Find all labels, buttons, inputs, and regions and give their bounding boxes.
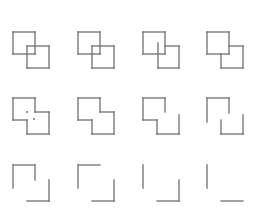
panel-6 xyxy=(78,98,114,134)
panel-5 xyxy=(13,98,49,134)
panel-7 xyxy=(143,98,179,134)
panel-10 xyxy=(78,165,114,201)
panel-8 xyxy=(207,98,243,134)
dot-marker xyxy=(26,111,28,113)
panel-9 xyxy=(13,165,49,201)
panel-4 xyxy=(207,32,243,68)
panel-12 xyxy=(207,165,243,201)
figure-canvas xyxy=(0,0,256,215)
panel-1 xyxy=(13,32,49,68)
panel-2 xyxy=(78,32,114,68)
dot-marker xyxy=(33,118,35,120)
panel-11 xyxy=(143,165,179,201)
panel-3 xyxy=(143,32,179,68)
